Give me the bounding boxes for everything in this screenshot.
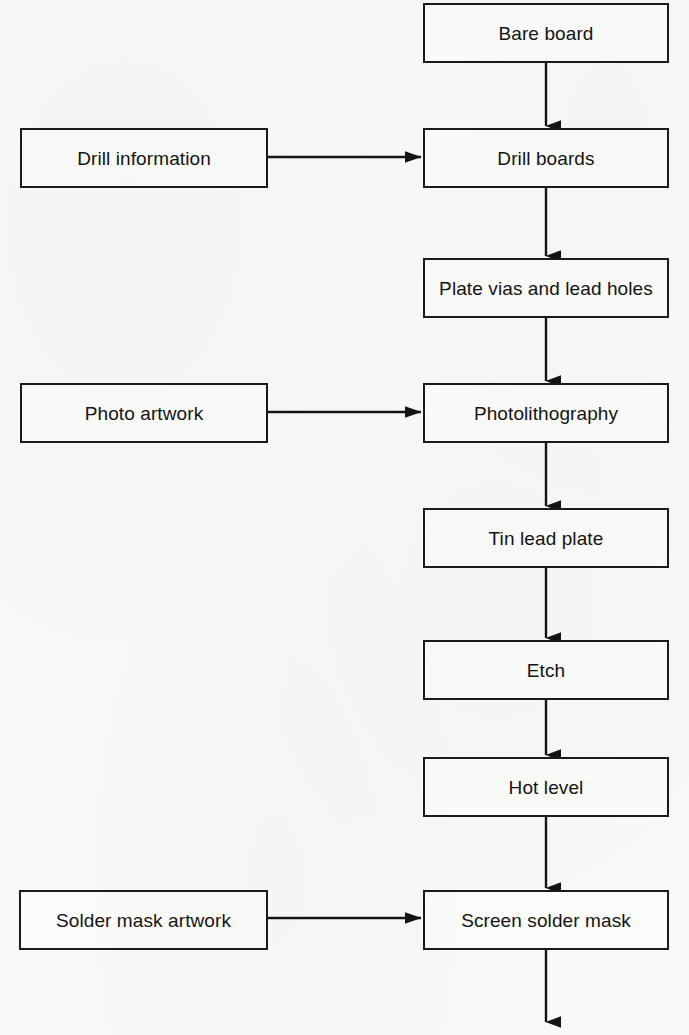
node-label-etch: Etch <box>527 661 565 680</box>
node-label-drill-boards: Drill boards <box>497 149 594 168</box>
node-label-drill-information: Drill information <box>77 149 211 168</box>
node-drill-boards[interactable]: Drill boards <box>423 128 669 188</box>
node-solder-mask-artwork[interactable]: Solder mask artwork <box>19 890 268 950</box>
node-plate-vias[interactable]: Plate vias and lead holes <box>423 258 669 318</box>
node-photolithography[interactable]: Photolithography <box>423 383 669 443</box>
node-label-hot-level: Hot level <box>509 778 584 797</box>
flowchart-canvas: Bare board Drill boards Plate vias and l… <box>0 0 689 1035</box>
horizontal-connector-group <box>268 157 421 918</box>
node-tin-lead-plate[interactable]: Tin lead plate <box>423 508 669 568</box>
node-etch[interactable]: Etch <box>423 640 669 700</box>
node-photo-artwork[interactable]: Photo artwork <box>20 383 268 443</box>
node-label-bare-board: Bare board <box>498 24 593 43</box>
node-label-solder-mask-artwork: Solder mask artwork <box>56 911 231 930</box>
node-label-photo-artwork: Photo artwork <box>85 404 204 423</box>
node-hot-level[interactable]: Hot level <box>423 757 669 817</box>
node-label-plate-vias: Plate vias and lead holes <box>439 279 653 298</box>
node-label-screen-solder-mask: Screen solder mask <box>461 911 631 930</box>
node-drill-information[interactable]: Drill information <box>20 128 268 188</box>
node-label-tin-lead-plate: Tin lead plate <box>489 529 604 548</box>
node-screen-solder-mask[interactable]: Screen solder mask <box>423 890 669 950</box>
node-bare-board[interactable]: Bare board <box>423 3 669 63</box>
node-label-photolithography: Photolithography <box>474 404 618 423</box>
